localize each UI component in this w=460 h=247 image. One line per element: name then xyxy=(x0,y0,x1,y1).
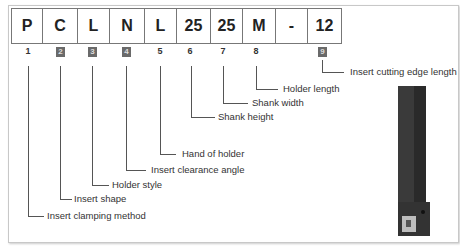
code-cell-dash: - xyxy=(276,9,308,43)
turning-tool-holder-icon xyxy=(396,84,436,239)
leader-line-4 xyxy=(126,66,127,171)
position-number-2: 2 xyxy=(56,47,65,57)
position-number-7: 7 xyxy=(217,46,229,56)
code-cell-5: L xyxy=(145,9,177,43)
label-insert-clamping-method: Insert clamping method xyxy=(47,210,146,221)
label-insert-clearance-angle: Insert clearance angle xyxy=(151,164,244,175)
code-cell-7: 25 xyxy=(211,9,243,43)
position-number-4: 4 xyxy=(122,47,131,57)
leader-line-9 xyxy=(322,60,323,72)
position-number-9: 9 xyxy=(318,47,327,57)
leader-line-5 xyxy=(160,66,161,154)
position-number-3: 3 xyxy=(88,47,97,57)
label-hand-of-holder: Hand of holder xyxy=(182,148,244,159)
leader-line-2 xyxy=(60,66,61,200)
label-insert-cutting-edge-length: Insert cutting edge length xyxy=(350,66,457,77)
label-shank-width: Shank width xyxy=(252,97,304,108)
code-cell-2: C xyxy=(43,9,78,43)
leader-line-7 xyxy=(223,66,224,103)
position-number-6: 6 xyxy=(184,46,196,56)
label-holder-style: Holder style xyxy=(112,179,162,190)
code-cell-3: L xyxy=(78,9,110,43)
position-number-5: 5 xyxy=(154,46,166,56)
label-shank-height: Shank height xyxy=(218,111,273,122)
position-number-1: 1 xyxy=(22,46,34,56)
code-cell-9: 12 xyxy=(308,9,341,43)
leader-line-3 xyxy=(92,66,93,186)
code-cell-1: P xyxy=(12,9,43,43)
code-cell-6: 25 xyxy=(177,9,211,43)
label-holder-length: Holder length xyxy=(283,83,340,94)
position-number-8: 8 xyxy=(250,46,262,56)
code-cell-8: M xyxy=(243,9,276,43)
code-cell-4: N xyxy=(110,9,145,43)
leader-line-6 xyxy=(191,66,192,118)
leader-line-8 xyxy=(256,66,257,89)
label-insert-shape: Insert shape xyxy=(74,193,126,204)
designation-code-row: P C L N L 25 25 M - 12 xyxy=(11,8,342,44)
leader-line-1 xyxy=(28,66,29,216)
